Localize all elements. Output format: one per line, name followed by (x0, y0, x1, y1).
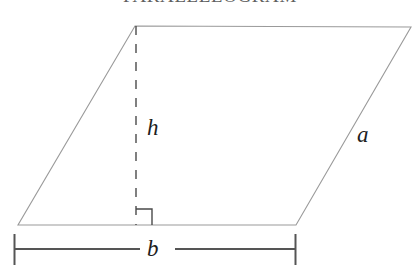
parallelogram-outline (18, 26, 411, 225)
parallelogram-figure: PARALLELOGRAM h a b (0, 0, 420, 269)
side-label: a (357, 123, 369, 146)
base-label: b (147, 237, 159, 260)
height-label: h (147, 116, 159, 139)
